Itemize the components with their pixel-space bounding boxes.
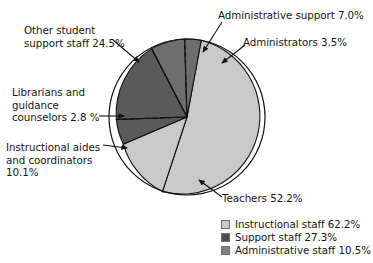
legend-swatch-support-staff <box>221 233 230 242</box>
slice-label-administrative-support: Administrative support 7.0% <box>218 9 364 22</box>
legend-label-administrative-staff: Administrative staff 10.5% <box>235 245 371 256</box>
legend-item-support-staff[interactable]: Support staff 27.3% <box>221 231 371 243</box>
slice-label-administrators: Administrators 3.5% <box>243 36 347 49</box>
chart-legend: Instructional staff 62.2% Support staff … <box>221 218 371 257</box>
legend-swatch-instructional-staff <box>221 220 230 229</box>
slice-label-librarians: Librarians and guidance counselors 2.8 % <box>12 86 99 124</box>
legend-swatch-administrative-staff <box>221 246 230 255</box>
legend-label-instructional-staff: Instructional staff 62.2% <box>235 219 360 230</box>
slice-label-instructional-aides: Instructional aides and coordinators 10.… <box>6 141 100 179</box>
slice-label-other-student-support: Other student support staff 24.5% <box>24 24 125 49</box>
legend-item-administrative-staff[interactable]: Administrative staff 10.5% <box>221 245 371 257</box>
legend-label-support-staff: Support staff 27.3% <box>235 232 337 243</box>
slice-label-teachers: Teachers 52.2% <box>222 192 303 205</box>
legend-item-instructional-staff[interactable]: Instructional staff 62.2% <box>221 218 371 230</box>
chart-canvas: Administrative support 7.0% Administrato… <box>0 0 373 263</box>
